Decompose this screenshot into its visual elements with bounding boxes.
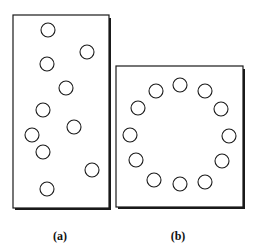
panel-shadow — [118, 69, 244, 208]
panel-shadow — [15, 18, 110, 209]
figure-canvas: (a) (b) — [0, 0, 256, 243]
circle-marker — [198, 84, 212, 98]
circle-marker — [40, 182, 54, 196]
circle-marker — [59, 81, 73, 95]
circle-marker — [173, 177, 187, 191]
panel-label: (a) — [53, 229, 67, 243]
circle-marker — [214, 102, 228, 116]
panel-label: (b) — [171, 229, 186, 243]
circle-marker — [36, 145, 50, 159]
circle-marker — [41, 23, 55, 37]
circle-marker — [123, 128, 137, 142]
circle-marker — [129, 153, 143, 167]
circle-marker — [131, 101, 145, 115]
circle-marker — [36, 103, 50, 117]
circle-marker — [40, 57, 54, 71]
circle-marker — [67, 120, 81, 134]
circle-marker — [149, 84, 163, 98]
circle-marker — [85, 163, 99, 177]
circle-marker — [80, 45, 94, 59]
panel-b: (b) — [116, 66, 244, 243]
panel-a: (a) — [13, 15, 110, 243]
circle-marker — [25, 128, 39, 142]
panel-box — [13, 15, 109, 208]
circle-marker — [222, 129, 236, 143]
circle-marker — [173, 78, 187, 92]
circle-marker — [215, 154, 229, 168]
circle-marker — [198, 175, 212, 189]
panel-box — [116, 66, 243, 207]
circle-marker — [147, 173, 161, 187]
